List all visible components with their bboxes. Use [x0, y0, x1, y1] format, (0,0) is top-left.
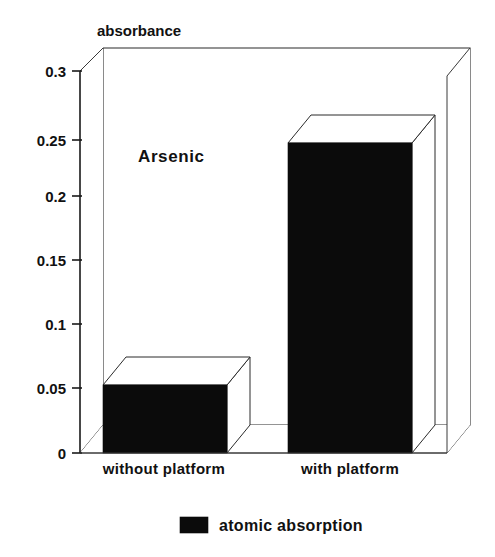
y-tick-label-0.15: 0.15: [37, 252, 66, 269]
y-tick-label-0.05: 0.05: [37, 380, 66, 397]
chart-right-wall: [447, 48, 470, 453]
bar-2-front-face: [288, 143, 412, 453]
y-tick-label-0: 0: [58, 445, 66, 462]
x-category-label-1: without platform: [102, 460, 225, 477]
legend-label-atomic-absorption: atomic absorption: [219, 517, 363, 534]
bar-chart-3d: 0 0.05 0.1 0.15 0.2 0.25 0.3 absorbance …: [0, 0, 495, 557]
y-tick-label-0.3: 0.3: [45, 63, 66, 80]
bar-1-front-face: [103, 385, 227, 453]
y-tick-label-0.2: 0.2: [45, 188, 66, 205]
legend-swatch-atomic-absorption: [180, 517, 208, 533]
bar-with-platform[interactable]: [288, 115, 435, 453]
chart-container: 0 0.05 0.1 0.15 0.2 0.25 0.3 absorbance …: [0, 0, 495, 557]
chart-left-wall: [80, 48, 103, 453]
plot-annotation-arsenic: Arsenic: [138, 147, 205, 166]
x-category-label-2: with platform: [300, 460, 399, 477]
y-tick-label-0.1: 0.1: [45, 316, 66, 333]
chart-legend: atomic absorption: [180, 517, 363, 534]
bar-without-platform[interactable]: [103, 357, 250, 453]
bar-2-side-face: [412, 115, 435, 453]
bar-1-top-face: [103, 357, 250, 385]
y-axis-title: absorbance: [97, 22, 181, 39]
bar-2-top-face: [288, 115, 435, 143]
y-tick-label-0.25: 0.25: [37, 132, 66, 149]
